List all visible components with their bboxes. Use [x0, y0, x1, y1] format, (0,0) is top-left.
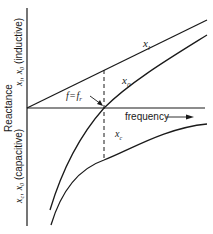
curve-x-0: [50, 35, 207, 210]
curve-x-c: [51, 124, 207, 225]
label-x-0: x0: [121, 74, 131, 89]
y-axis-lower-label: xc, x0 (capacitive): [13, 129, 25, 204]
y-axis-upper-label: xl, x0 (inductive): [13, 18, 25, 87]
label-x-c: xc: [114, 128, 122, 141]
resonance-arrow-head: [97, 100, 103, 106]
reactance-diagram: xl x0 xc f=fr frequency Reactance xl, x0…: [0, 0, 213, 234]
x-axis-label: frequency: [125, 111, 169, 122]
curve-x-l: [27, 20, 207, 108]
resonance-label: f=fr: [66, 90, 82, 103]
y-axis-label: Reactance: [3, 84, 14, 132]
frequency-arrow-head: [186, 115, 194, 120]
